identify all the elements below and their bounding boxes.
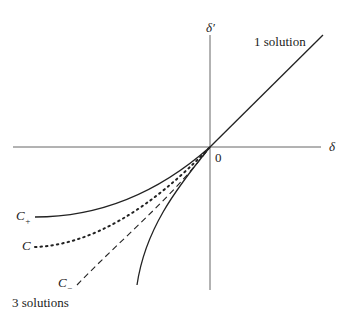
y-axis-label: δ′ <box>206 20 215 36</box>
curve-label-c-minus: C− <box>58 275 73 293</box>
curve-label-c-plus: C+ <box>16 208 31 226</box>
curve-c-plus <box>35 147 210 217</box>
one-solution-label: 1 solution <box>254 34 306 50</box>
three-solutions-label: 3 solutions <box>12 295 69 311</box>
one-solution-line <box>210 35 323 147</box>
x-axis-label: δ <box>329 139 335 155</box>
curve-label-c: C <box>22 238 31 254</box>
curve-inner <box>137 147 210 285</box>
origin-label: 0 <box>215 150 222 166</box>
curve-c <box>35 147 210 247</box>
